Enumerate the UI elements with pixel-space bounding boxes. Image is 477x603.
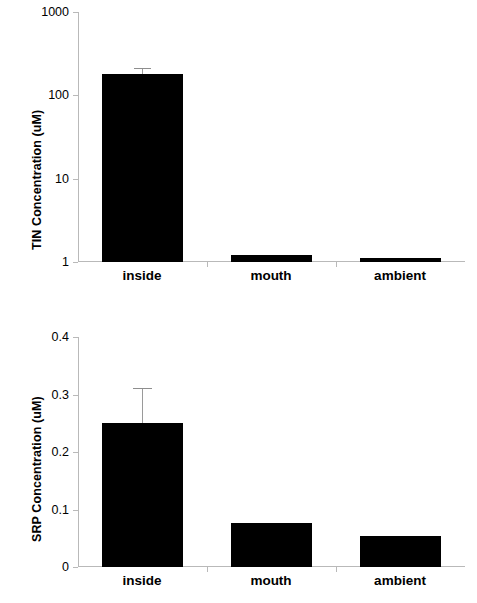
srp-y-label-0-2: 0.2 bbox=[52, 446, 69, 459]
srp-chart-figure: SRP Concentration (uM) 0.4 0.3 0.2 0.1 0… bbox=[0, 310, 477, 580]
srp-y-axis-title: SRP Concentration (uM) bbox=[30, 396, 44, 542]
tin-y-tick-1000 bbox=[73, 12, 78, 13]
srp-y-tick-0 bbox=[73, 567, 78, 568]
tin-y-label-1000: 1000 bbox=[41, 6, 69, 19]
srp-y-label-0-4: 0.4 bbox=[52, 331, 69, 344]
srp-x-tick-1 bbox=[207, 567, 208, 572]
tin-x-tick-1 bbox=[207, 262, 208, 267]
tin-y-axis-line bbox=[78, 12, 79, 262]
srp-x-tick-2 bbox=[336, 567, 337, 572]
srp-y-label-0: 0 bbox=[62, 561, 69, 574]
tin-x-label-ambient: ambient bbox=[374, 268, 426, 283]
tin-y-label-1: 1 bbox=[62, 256, 69, 269]
srp-y-tick-0-1 bbox=[73, 510, 78, 511]
srp-bar-inside bbox=[102, 423, 183, 567]
srp-x-label-inside: inside bbox=[122, 573, 161, 588]
tin-y-axis-title: TIN Concentration (uM) bbox=[30, 110, 44, 250]
tin-error-bar-inside-cap bbox=[134, 68, 151, 69]
srp-bar-ambient bbox=[360, 536, 441, 567]
tin-plot-area: 1000 100 10 1 bbox=[78, 12, 465, 262]
tin-x-tick-2 bbox=[336, 262, 337, 267]
tin-y-label-100: 100 bbox=[48, 89, 69, 102]
srp-error-bar-inside-cap bbox=[133, 388, 152, 389]
tin-bar-ambient bbox=[360, 258, 441, 262]
srp-y-tick-0-3 bbox=[73, 395, 78, 396]
tin-x-label-mouth: mouth bbox=[250, 268, 291, 283]
tin-y-tick-1 bbox=[73, 262, 78, 263]
srp-x-label-ambient: ambient bbox=[374, 573, 426, 588]
tin-y-label-10: 10 bbox=[55, 172, 69, 185]
srp-x-label-mouth: mouth bbox=[250, 573, 291, 588]
srp-y-axis-line bbox=[78, 337, 79, 567]
tin-y-tick-10 bbox=[73, 179, 78, 180]
figure-caption-clipped bbox=[4, 594, 474, 603]
srp-y-tick-0-4 bbox=[73, 337, 78, 338]
tin-bar-mouth bbox=[231, 255, 312, 262]
srp-y-label-0-3: 0.3 bbox=[52, 388, 69, 401]
tin-bar-inside bbox=[102, 74, 183, 262]
tin-chart-figure: TIN Concentration (uM) 1000 100 10 1 ins… bbox=[0, 0, 477, 300]
tin-y-tick-100 bbox=[73, 95, 78, 96]
srp-plot-area: 0.4 0.3 0.2 0.1 0 bbox=[78, 337, 465, 567]
srp-y-label-0-1: 0.1 bbox=[52, 503, 69, 516]
srp-error-bar-inside-stem bbox=[142, 389, 143, 424]
srp-y-tick-0-2 bbox=[73, 452, 78, 453]
srp-bar-mouth bbox=[231, 523, 312, 567]
tin-x-label-inside: inside bbox=[122, 268, 161, 283]
tin-error-bar-inside-stem bbox=[142, 69, 143, 74]
